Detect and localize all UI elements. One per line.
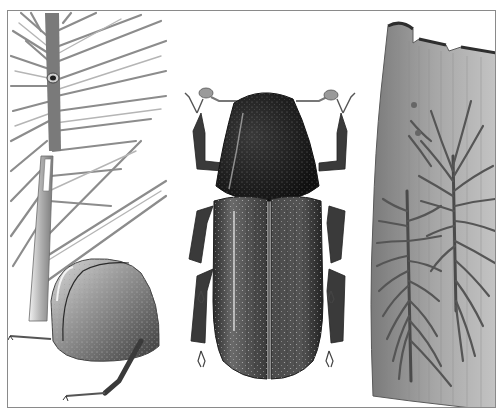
- illustration-canvas: [0, 0, 500, 415]
- side-leg-front: [10, 336, 51, 339]
- beetle-side-view: [8, 259, 159, 401]
- pine-needles: [11, 13, 166, 281]
- bark-galleries: [371, 23, 496, 408]
- illustration-svg: [8, 11, 496, 408]
- beetle-dorsal-view: [185, 88, 355, 379]
- illustration-frame: [7, 10, 496, 408]
